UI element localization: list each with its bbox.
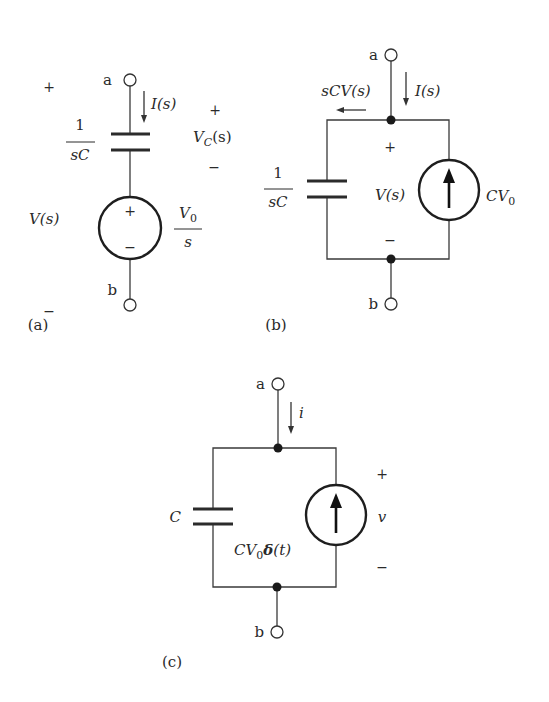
capacitor-label: C <box>170 508 182 526</box>
current-arrow-icon <box>141 91 147 123</box>
terminal-b-icon <box>271 626 283 638</box>
current-arrow-icon <box>288 402 294 434</box>
voltage-minus-sign: − <box>376 559 388 575</box>
terminal-a-label: a <box>256 375 265 393</box>
source-value-label: CV0δ(t) <box>234 541 291 562</box>
terminal-b-icon <box>124 299 136 311</box>
terminal-b-icon <box>385 298 397 310</box>
vc-label: VC(s) <box>193 128 232 149</box>
branch-current-label: sCV(s) <box>321 82 371 100</box>
panel-c: a b i C CV0δ(t) + v − (c) <box>162 375 388 671</box>
panel-b: a b I(s) sCV(s) 1 sC + V(s) − CV0 (b) <box>264 46 515 334</box>
terminal-b-label: b <box>107 281 117 299</box>
terminal-a-icon <box>272 378 284 390</box>
source-value-denominator: s <box>184 233 192 251</box>
terminal-b-label: b <box>368 295 378 313</box>
capacitor-icon <box>111 134 150 150</box>
port-voltage-label: V(s) <box>29 210 59 228</box>
node-top-icon <box>387 116 396 125</box>
source-minus-sign: − <box>124 239 136 255</box>
node-bottom-icon <box>387 255 396 264</box>
node-voltage-label: V(s) <box>375 186 405 204</box>
impedance-denominator: sC <box>268 193 288 211</box>
panel-a: + − a b I(s) 1 sC + VC(s) − + V(s) − V0 … <box>28 71 232 334</box>
current-source-icon <box>419 160 479 220</box>
source-plus-sign: + <box>124 203 136 219</box>
node-voltage-plus-sign: + <box>384 139 396 155</box>
caption-b: (b) <box>265 316 286 334</box>
terminal-a-icon <box>124 74 136 86</box>
node-top-icon <box>274 444 283 453</box>
source-value-numerator: V0 <box>179 204 197 225</box>
branch-current-arrow-icon <box>336 107 366 113</box>
node-voltage-minus-sign: − <box>384 232 396 248</box>
caption-a: (a) <box>28 316 49 334</box>
capacitor-icon <box>307 181 347 197</box>
node-bottom-icon <box>273 583 282 592</box>
current-label: i <box>299 404 304 422</box>
vc-minus-sign: − <box>208 159 220 175</box>
impedance-numerator: 1 <box>75 116 85 134</box>
voltage-plus-sign: + <box>376 466 388 482</box>
current-arrow-icon <box>403 72 409 106</box>
source-value-label: CV0 <box>486 187 515 208</box>
vc-plus-sign: + <box>209 102 221 118</box>
terminal-a-label: a <box>103 71 112 89</box>
terminal-a-label: a <box>369 46 378 64</box>
capacitor-icon <box>193 509 233 524</box>
impedance-denominator: sC <box>70 146 90 164</box>
terminal-a-icon <box>385 49 397 61</box>
voltage-label: v <box>378 508 387 526</box>
caption-c: (c) <box>162 653 182 671</box>
current-label: I(s) <box>414 82 440 100</box>
current-label: I(s) <box>150 95 176 113</box>
impedance-numerator: 1 <box>273 164 283 182</box>
current-source-icon <box>306 485 366 545</box>
circuit-figure: + − a b I(s) 1 sC + VC(s) − + V(s) − V0 … <box>0 0 549 702</box>
terminal-b-label: b <box>254 623 264 641</box>
port-plus-sign: + <box>43 79 55 95</box>
